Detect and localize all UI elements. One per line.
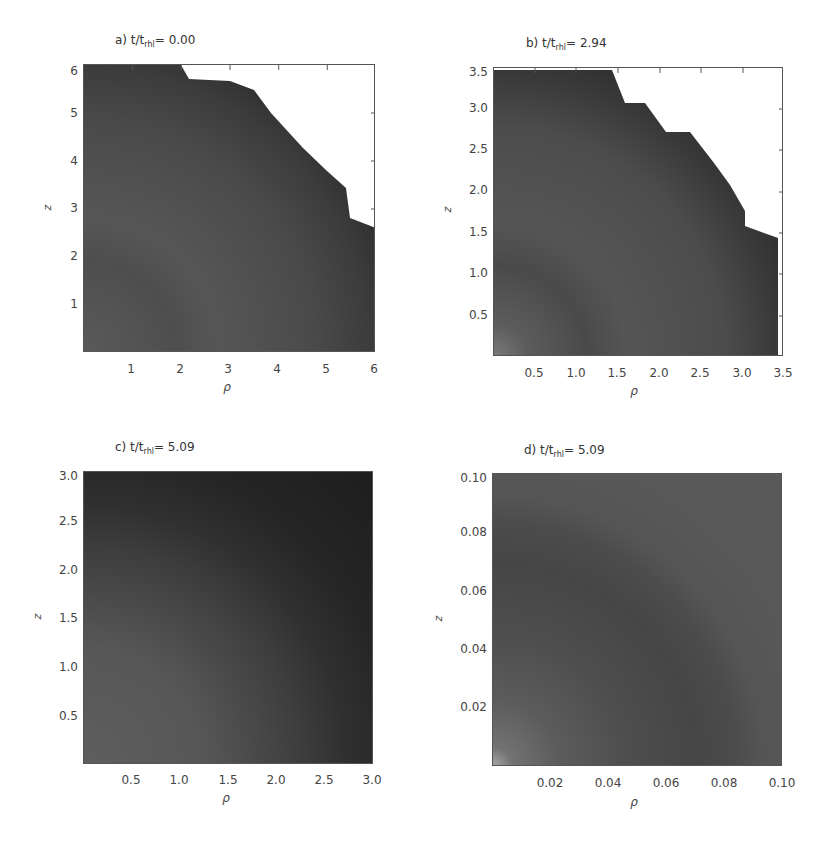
y-tick: 1.0 [469,266,488,280]
x-axis-label: ρ [630,384,638,398]
panel-d-plot-area [492,473,782,766]
x-tick: 0.10 [769,776,796,790]
y-tick: 4 [70,154,78,168]
y-axis-label: z [442,207,455,213]
panel-c-title: c) t/trhl= 5.09 [115,440,195,456]
panel-c-plot-area [83,471,373,764]
y-tick: 0.06 [460,584,487,598]
x-tick: 1.0 [169,773,188,787]
y-tick: 0.02 [460,700,487,714]
y-tick: 3.5 [469,65,488,79]
x-axis-label: ρ [222,791,230,805]
x-tick: 0.06 [653,776,680,790]
y-tick: 1.5 [59,611,78,625]
x-tick: 0.02 [537,776,564,790]
x-tick: 2.0 [649,366,668,380]
y-tick: 0.10 [460,471,487,485]
y-tick: 3.0 [59,469,78,483]
x-tick: 3.0 [362,773,381,787]
x-tick: 2.0 [266,773,285,787]
x-tick: 1 [127,362,135,376]
y-tick: 1.0 [59,660,78,674]
x-tick: 4 [273,362,281,376]
y-tick: 3.0 [469,101,488,115]
y-tick: 1 [70,297,78,311]
y-tick: 0.5 [469,308,488,322]
panel-a-plot-area [83,64,375,352]
x-tick: 0.5 [524,366,543,380]
y-tick: 3 [70,201,78,215]
y-tick: 1.5 [469,225,488,239]
x-axis-label: ρ [223,380,231,394]
x-tick: 2.5 [690,366,709,380]
x-tick: 1.5 [218,773,237,787]
x-tick: 0.04 [595,776,622,790]
y-axis-label: z [32,614,45,620]
panel-b-title: b) t/trhl= 2.94 [526,36,607,52]
panel-a-title: a) t/trhl= 0.00 [115,33,195,49]
x-axis-label: ρ [630,795,638,809]
x-tick: 2.5 [314,773,333,787]
x-tick: 2 [176,362,184,376]
y-tick: 2.0 [59,563,78,577]
y-tick: 5 [70,106,78,120]
y-tick: 2.0 [469,183,488,197]
y-axis-label: z [433,616,446,622]
panel-d-title: d) t/trhl= 5.09 [524,443,605,459]
x-tick: 3.0 [732,366,751,380]
y-axis-label: z [42,205,55,211]
panel-b-plot-area [493,67,783,356]
x-tick: 1.5 [607,366,626,380]
x-tick: 6 [370,362,378,376]
y-tick: 0.04 [460,642,487,656]
y-tick: 2.5 [469,142,488,156]
y-tick: 6 [70,64,78,78]
y-tick: 2.5 [59,514,78,528]
y-tick: 2 [70,249,78,263]
x-tick: 0.5 [121,773,140,787]
x-tick: 0.08 [711,776,738,790]
y-tick: 0.08 [460,525,487,539]
x-tick: 3 [224,362,232,376]
x-tick: 3.5 [773,366,792,380]
x-tick: 1.0 [566,366,585,380]
y-tick: 0.5 [59,709,78,723]
x-tick: 5 [322,362,330,376]
